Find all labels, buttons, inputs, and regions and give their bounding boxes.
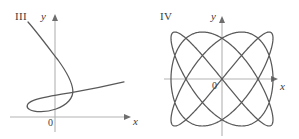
x-axis-arrowhead bbox=[124, 114, 131, 120]
panel-iii-y-axis-label: y bbox=[41, 11, 46, 22]
panel-iv-roman-label: IV bbox=[160, 11, 172, 22]
x-axis-arrowhead bbox=[271, 76, 278, 82]
panel-iv: IV y x 0 bbox=[149, 0, 299, 139]
panel-iv-y-axis-label: y bbox=[211, 11, 216, 22]
panel-iv-origin-label: 0 bbox=[212, 81, 217, 91]
looping-parametric-curve bbox=[27, 22, 124, 112]
y-axis-arrowhead bbox=[219, 16, 225, 23]
figure-root: III y x 0 IV y x 0 bbox=[0, 0, 299, 139]
panel-iii-origin-label: 0 bbox=[48, 118, 53, 128]
panel-iii-axes bbox=[10, 14, 131, 132]
panel-iii-x-axis-label: x bbox=[133, 116, 138, 127]
panel-iii: III y x 0 bbox=[0, 0, 150, 139]
y-axis-arrowhead bbox=[52, 14, 58, 21]
panel-iii-roman-label: III bbox=[15, 11, 27, 22]
panel-iv-x-axis-label: x bbox=[280, 81, 285, 92]
